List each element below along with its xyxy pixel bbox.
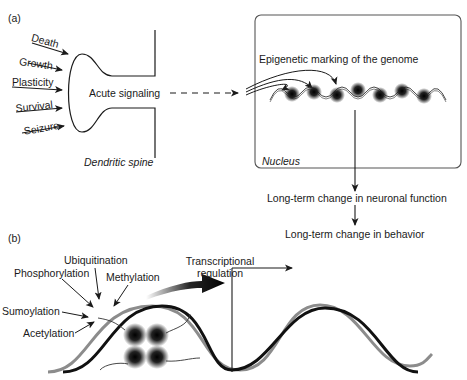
transcription-label-line2: regulation bbox=[170, 268, 270, 279]
mod-methylation: Methylation bbox=[106, 272, 160, 283]
input-plasticity: Plasticity bbox=[12, 77, 53, 88]
epigenetic-marking-label: Epigenetic marking of the genome bbox=[259, 54, 418, 65]
nucleus-caption: Nucleus bbox=[262, 156, 300, 167]
mod-sumoylation: Sumoylation bbox=[2, 306, 60, 317]
histone-octamer bbox=[123, 323, 169, 369]
acute-signaling-label: Acute signaling bbox=[89, 88, 160, 99]
panel-b-label: (b) bbox=[8, 233, 21, 244]
dna-strand-grey bbox=[48, 305, 432, 372]
mod-phosphorylation: Phosphorylation bbox=[14, 268, 89, 279]
panel-a-label: (a) bbox=[8, 13, 21, 24]
dendritic-spine-caption: Dendritic spine bbox=[84, 157, 153, 168]
nucleosomes bbox=[284, 82, 432, 104]
outcome-neuronal-function: Long-term change in neuronal function bbox=[267, 193, 447, 204]
mod-ubiquitination: Ubiquitination bbox=[64, 255, 128, 266]
transcription-label-line1: Transcriptional bbox=[170, 256, 270, 267]
outcome-behavior: Long-term change in behavior bbox=[285, 229, 425, 240]
mod-acetylation: Acetylation bbox=[23, 328, 74, 339]
